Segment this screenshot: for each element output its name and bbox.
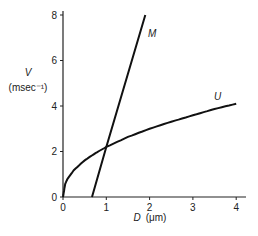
x-tick-label: 0 [60, 202, 66, 213]
y-tick-label: 8 [51, 10, 57, 21]
y-ticks: 02468 [51, 10, 63, 203]
label-m: M [148, 28, 157, 39]
x-axis-label: D (μm) [134, 212, 167, 223]
x-axis-label-unit: (μm) [146, 212, 167, 223]
y-tick-label: 6 [51, 55, 57, 66]
label-u: U [214, 91, 222, 102]
x-tick-label: 4 [233, 202, 239, 213]
y-axis-label-unit: (msec⁻¹) [9, 82, 48, 93]
x-ticks: 01234 [60, 197, 239, 213]
y-tick-label: 4 [51, 101, 57, 112]
x-axis-label-var: D [134, 212, 141, 223]
x-tick-label: 1 [104, 202, 110, 213]
y-axis-label-var: V [25, 67, 33, 78]
x-tick-label: 3 [190, 202, 196, 213]
y-tick-label: 0 [51, 192, 57, 203]
series-u-curve [63, 104, 236, 197]
y-tick-label: 2 [51, 146, 57, 157]
chart: 02468 01234 V (msec⁻¹) D (μm) M U [0, 0, 258, 236]
series-m-line [92, 15, 145, 197]
